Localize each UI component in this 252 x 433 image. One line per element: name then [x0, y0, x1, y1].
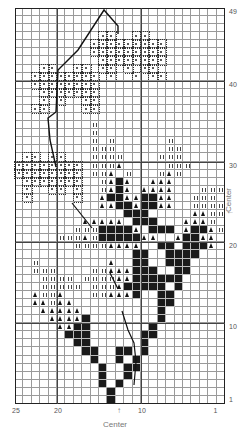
tick-cell — [49, 291, 57, 299]
tick-cell — [107, 275, 115, 283]
empty-cell — [191, 153, 199, 161]
empty-cell — [208, 396, 216, 404]
empty-cell — [149, 210, 157, 218]
empty-cell — [40, 210, 48, 218]
triangle-cell — [166, 186, 174, 194]
empty-cell — [40, 186, 48, 194]
empty-cell — [49, 129, 57, 137]
empty-cell — [23, 331, 31, 339]
empty-cell — [57, 267, 65, 275]
empty-cell — [32, 275, 40, 283]
empty-cell — [49, 137, 57, 145]
empty-cell — [191, 8, 199, 16]
empty-cell — [149, 242, 157, 250]
empty-cell — [124, 113, 132, 121]
dotted-cell — [158, 40, 166, 48]
black-cell — [183, 234, 191, 242]
empty-cell — [149, 121, 157, 129]
black-cell — [191, 226, 199, 234]
empty-cell — [175, 129, 183, 137]
empty-cell — [65, 339, 73, 347]
empty-cell — [107, 315, 115, 323]
empty-cell — [200, 299, 208, 307]
empty-cell — [65, 153, 73, 161]
empty-cell — [133, 347, 141, 355]
empty-cell — [116, 8, 124, 16]
empty-cell — [183, 202, 191, 210]
tick-cell — [91, 153, 99, 161]
empty-cell — [107, 81, 115, 89]
empty-cell — [15, 380, 23, 388]
black-cell — [166, 299, 174, 307]
empty-cell — [166, 218, 174, 226]
triangle-cell — [32, 299, 40, 307]
empty-cell — [23, 299, 31, 307]
tick-cell — [91, 226, 99, 234]
tick-cell — [99, 178, 107, 186]
black-cell — [133, 218, 141, 226]
empty-cell — [183, 356, 191, 364]
black-cell — [200, 242, 208, 250]
empty-cell — [49, 347, 57, 355]
empty-cell — [141, 121, 149, 129]
empty-cell — [217, 8, 225, 16]
empty-cell — [208, 105, 216, 113]
black-cell — [133, 234, 141, 242]
empty-cell — [208, 372, 216, 380]
empty-cell — [74, 388, 82, 396]
empty-cell — [158, 65, 166, 73]
black-cell — [158, 242, 166, 250]
triangle-cell — [107, 242, 115, 250]
empty-cell — [116, 105, 124, 113]
empty-cell — [158, 234, 166, 242]
empty-cell — [99, 121, 107, 129]
empty-cell — [166, 323, 174, 331]
triangle-cell — [99, 218, 107, 226]
empty-cell — [200, 16, 208, 24]
triangle-cell — [124, 267, 132, 275]
tick-cell — [107, 153, 115, 161]
empty-cell — [200, 347, 208, 355]
empty-cell — [82, 56, 90, 64]
empty-cell — [32, 218, 40, 226]
empty-cell — [183, 307, 191, 315]
empty-cell — [191, 178, 199, 186]
empty-cell — [200, 315, 208, 323]
empty-cell — [133, 380, 141, 388]
empty-cell — [15, 307, 23, 315]
empty-cell — [166, 388, 174, 396]
dotted-cell — [40, 81, 48, 89]
tick-cell — [91, 242, 99, 250]
tick-cell — [74, 226, 82, 234]
empty-cell — [23, 73, 31, 81]
empty-cell — [166, 73, 174, 81]
triangle-cell — [116, 162, 124, 170]
empty-cell — [149, 113, 157, 121]
triangle-cell — [183, 218, 191, 226]
dotted-cell — [57, 89, 65, 97]
empty-cell — [74, 145, 82, 153]
black-cell — [124, 283, 132, 291]
empty-cell — [49, 250, 57, 258]
empty-cell — [208, 65, 216, 73]
dotted-cell — [116, 48, 124, 56]
empty-cell — [200, 73, 208, 81]
empty-cell — [23, 56, 31, 64]
empty-cell — [208, 137, 216, 145]
empty-cell — [99, 24, 107, 32]
empty-cell — [23, 315, 31, 323]
empty-cell — [149, 16, 157, 24]
triangle-cell — [141, 186, 149, 194]
empty-cell — [175, 113, 183, 121]
empty-cell — [191, 97, 199, 105]
empty-cell — [15, 73, 23, 81]
empty-cell — [166, 40, 174, 48]
empty-cell — [15, 145, 23, 153]
empty-cell — [40, 218, 48, 226]
tick-cell — [49, 283, 57, 291]
empty-cell — [91, 65, 99, 73]
tick-cell — [49, 275, 57, 283]
tick-cell — [40, 283, 48, 291]
empty-cell — [183, 81, 191, 89]
empty-cell — [65, 65, 73, 73]
